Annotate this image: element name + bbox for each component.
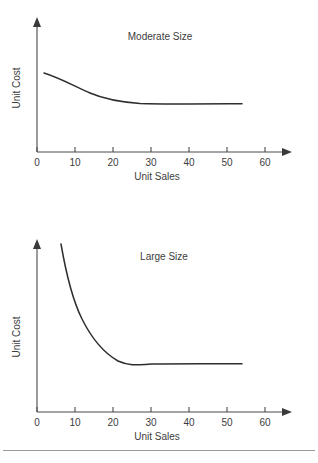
chart-moderate-size: 0 10 20 30 40 50 60 Moderate Size Unit S… [0, 0, 318, 200]
x-tick-label-30: 30 [145, 157, 157, 168]
figure-page: 0 10 20 30 40 50 60 Moderate Size Unit S… [0, 0, 318, 463]
x-axis-title: Unit Sales [134, 431, 180, 440]
chart-large-size-svg: 0 10 20 30 40 50 60 Large Size Unit Sale… [0, 225, 318, 440]
x-tick-label-0: 0 [34, 417, 40, 428]
x-tick-label-30: 30 [145, 417, 157, 428]
x-tick-label-40: 40 [183, 417, 195, 428]
footer-divider [3, 450, 315, 451]
x-tick-label-60: 60 [259, 157, 271, 168]
y-axis-arrow-icon [33, 17, 41, 27]
x-axis-arrow-icon [282, 408, 292, 416]
x-tick-label-20: 20 [107, 417, 119, 428]
x-tick-label-40: 40 [183, 157, 195, 168]
x-tick-label-10: 10 [69, 417, 81, 428]
x-axis-arrow-icon [282, 148, 292, 156]
chart-large-size: 0 10 20 30 40 50 60 Large Size Unit Sale… [0, 225, 318, 440]
x-axis-title: Unit Sales [134, 171, 180, 182]
y-axis-arrow-icon [33, 239, 41, 249]
x-tick-label-10: 10 [69, 157, 81, 168]
chart-moderate-size-svg: 0 10 20 30 40 50 60 Moderate Size Unit S… [0, 0, 318, 200]
y-axis-title: Unit Cost [11, 67, 22, 108]
data-curve-moderate [44, 73, 242, 104]
x-tick-label-50: 50 [221, 417, 233, 428]
data-curve-large [61, 244, 242, 365]
chart-title: Large Size [140, 251, 188, 262]
x-tick-label-0: 0 [34, 157, 40, 168]
y-axis-title: Unit Cost [11, 316, 22, 357]
chart-title: Moderate Size [128, 31, 193, 42]
x-tick-label-50: 50 [221, 157, 233, 168]
x-tick-label-60: 60 [259, 417, 271, 428]
x-tick-label-20: 20 [107, 157, 119, 168]
